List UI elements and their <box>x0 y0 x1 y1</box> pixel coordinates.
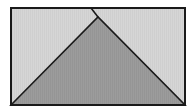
geometry-diagram <box>0 0 194 112</box>
